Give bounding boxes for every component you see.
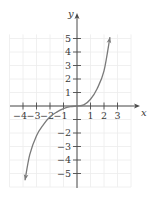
y-tick-label: −2: [57, 127, 71, 138]
x-tick-label: 3: [114, 110, 120, 121]
x-tick-label: −3: [26, 110, 40, 121]
y-tick-label: 1: [65, 87, 71, 98]
x-tick-label: 2: [101, 110, 107, 121]
axes: [10, 13, 140, 188]
y-tick-label: 5: [65, 33, 71, 44]
y-tick-label: −4: [57, 154, 71, 165]
y-tick-label: −5: [57, 168, 71, 179]
x-tick-label: 1: [87, 110, 93, 121]
function-graph: −4−3−2−112354321−2−3−4−5 x y: [0, 0, 149, 201]
x-axis-label: x: [141, 107, 147, 118]
x-tick-label: −4: [13, 110, 27, 121]
x-tick-label: −1: [53, 110, 67, 121]
y-tick-label: −3: [57, 141, 71, 152]
y-tick-label: 3: [65, 60, 71, 71]
y-tick-label: 2: [65, 73, 71, 84]
y-axis-label: y: [67, 8, 74, 19]
y-tick-label: 4: [65, 46, 71, 57]
